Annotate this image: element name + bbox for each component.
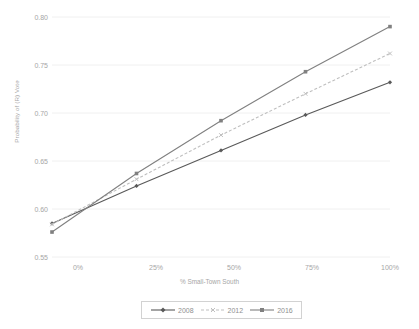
data-point-marker bbox=[304, 70, 308, 74]
data-point-marker bbox=[219, 133, 223, 137]
legend-swatch-2012 bbox=[200, 305, 226, 315]
gridlines bbox=[52, 17, 390, 257]
series-line-2008 bbox=[52, 82, 390, 223]
line-chart: Probability of (R) Vote 0.80 0.75 0.70 0… bbox=[0, 0, 419, 329]
legend-swatch-2016 bbox=[249, 305, 275, 315]
data-point-marker bbox=[135, 172, 139, 176]
legend[interactable]: 200820122016 bbox=[141, 301, 302, 319]
x-tick-label: 25% bbox=[134, 264, 178, 271]
data-point-marker bbox=[388, 25, 392, 29]
series-line-2012 bbox=[52, 53, 390, 224]
x-tick-label: 75% bbox=[290, 264, 334, 271]
data-point-marker bbox=[50, 230, 54, 234]
data-point-marker bbox=[135, 177, 139, 181]
data-point-marker bbox=[219, 119, 223, 123]
data-point-marker bbox=[388, 80, 392, 84]
x-tick-label: 0% bbox=[56, 264, 100, 271]
data-point-marker bbox=[219, 148, 223, 152]
series-layer bbox=[50, 25, 392, 234]
x-axis-title: % Small-Town South bbox=[0, 278, 419, 285]
data-point-marker bbox=[134, 184, 138, 188]
legend-label: 2012 bbox=[228, 307, 244, 314]
legend-label: 2016 bbox=[277, 307, 293, 314]
x-tick-label: 100% bbox=[368, 264, 412, 271]
legend-item-2016[interactable]: 2016 bbox=[249, 305, 293, 315]
legend-label: 2008 bbox=[178, 307, 194, 314]
data-point-marker bbox=[388, 52, 392, 56]
legend-item-2012[interactable]: 2012 bbox=[200, 305, 244, 315]
x-tick-label: 50% bbox=[212, 264, 256, 271]
legend-swatch-2008 bbox=[150, 305, 176, 315]
data-point-marker bbox=[304, 92, 308, 96]
legend-item-2008[interactable]: 2008 bbox=[150, 305, 194, 315]
